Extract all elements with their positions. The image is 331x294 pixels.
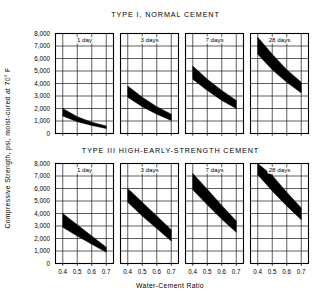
x-tick-label: 0.4 bbox=[188, 268, 197, 275]
y-tick-label: 8,000 bbox=[34, 30, 50, 37]
y-tick-label: 3,000 bbox=[34, 92, 50, 99]
x-tick-label: 0.5 bbox=[73, 268, 82, 275]
x-tick-label: 0.6 bbox=[282, 268, 291, 275]
y-tick-label: 3,000 bbox=[34, 222, 50, 229]
x-tick-label: 0.7 bbox=[232, 268, 241, 275]
y-tick-label: 0 bbox=[46, 260, 50, 267]
x-tick-label: 0.6 bbox=[217, 268, 226, 275]
data-band-3-days bbox=[128, 189, 172, 242]
panel-label-7-days: 7 days bbox=[205, 166, 223, 173]
y-tick-label: 5,000 bbox=[34, 67, 50, 74]
panel-label-28-days: 28 days bbox=[269, 166, 291, 173]
x-tick-label: 0.7 bbox=[102, 268, 111, 275]
figure-container: TYPE I, NORMAL CEMENTTYPE III HIGH-EARLY… bbox=[0, 0, 331, 294]
data-band-1-day bbox=[63, 109, 107, 129]
x-tick-label: 0.4 bbox=[58, 268, 67, 275]
panel-label-28-days: 28 days bbox=[269, 36, 291, 43]
y-tick-label: 7,000 bbox=[34, 42, 50, 49]
y-tick-label: 6,000 bbox=[34, 55, 50, 62]
y-tick-label: 7,000 bbox=[34, 172, 50, 179]
y-tick-label: 2,000 bbox=[34, 105, 50, 112]
x-axis-label: Water-Cement Ratio bbox=[136, 282, 204, 289]
y-tick-label: 1,000 bbox=[34, 117, 50, 124]
panel-label-3-days: 3 days bbox=[140, 166, 158, 173]
x-tick-label: 0.7 bbox=[167, 268, 176, 275]
y-tick-label: 1,000 bbox=[34, 247, 50, 254]
chart-title-type-1: TYPE I, NORMAL CEMENT bbox=[111, 10, 220, 19]
data-band-1-day bbox=[63, 214, 107, 253]
data-band-7-days bbox=[193, 66, 237, 109]
y-tick-label: 0 bbox=[46, 130, 50, 137]
data-band-3-days bbox=[128, 86, 172, 120]
x-tick-label: 0.5 bbox=[138, 268, 147, 275]
y-axis-label: Compressive Strength, psi, moist-cured a… bbox=[4, 67, 12, 228]
y-tick-label: 4,000 bbox=[34, 210, 50, 217]
data-band-28-days bbox=[258, 37, 302, 93]
x-tick-label: 0.5 bbox=[203, 268, 212, 275]
x-tick-label: 0.4 bbox=[253, 268, 262, 275]
x-tick-label: 0.4 bbox=[123, 268, 132, 275]
y-tick-label: 4,000 bbox=[34, 80, 50, 87]
panel-label-7-days: 7 days bbox=[205, 36, 223, 43]
chart-title-type-3: TYPE III HIGH-EARLY-STRENGTH CEMENT bbox=[82, 146, 259, 155]
data-band-7-days bbox=[193, 174, 237, 233]
y-tick-label: 5,000 bbox=[34, 197, 50, 204]
panel-label-1-day: 1 day bbox=[77, 166, 93, 173]
y-tick-label: 6,000 bbox=[34, 185, 50, 192]
panel-label-3-days: 3 days bbox=[140, 36, 158, 43]
x-tick-label: 0.5 bbox=[268, 268, 277, 275]
x-tick-label: 0.6 bbox=[87, 268, 96, 275]
x-tick-label: 0.7 bbox=[297, 268, 306, 275]
chart-svg: TYPE I, NORMAL CEMENTTYPE III HIGH-EARLY… bbox=[0, 0, 331, 294]
y-tick-label: 2,000 bbox=[34, 235, 50, 242]
y-tick-label: 8,000 bbox=[34, 160, 50, 167]
panel-label-1-day: 1 day bbox=[77, 36, 93, 43]
x-tick-label: 0.6 bbox=[152, 268, 161, 275]
